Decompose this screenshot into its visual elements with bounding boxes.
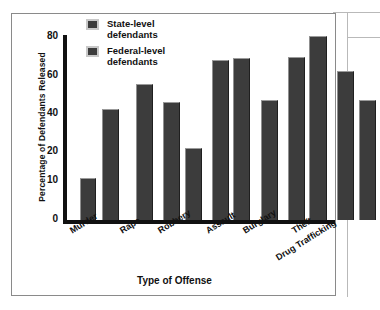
legend-label: Federal-leveldefendants [107, 45, 165, 67]
page-rule-top [333, 12, 380, 13]
bar-murder-federal [102, 109, 119, 220]
chart-legend: State-leveldefendantsFederal-leveldefend… [86, 18, 216, 72]
y-tick-label: 80 [24, 31, 58, 41]
bar-burglary-federal [261, 100, 278, 220]
y-axis-line [63, 35, 67, 224]
bar-theft-federal [309, 36, 327, 220]
legend-swatch [86, 19, 99, 30]
y-axis-title: Percentage of Defendants Released [37, 42, 47, 212]
legend-label: State-leveldefendants [107, 18, 158, 40]
bar-assault-state [212, 60, 229, 220]
legend-label-line1: State-level [107, 18, 158, 29]
legend-label-line2: defendants [107, 29, 158, 40]
legend-item: Federal-leveldefendants [86, 45, 216, 67]
bar-robbery-state [163, 102, 180, 220]
legend-label-line1: Federal-level [107, 45, 165, 56]
legend-item: State-leveldefendants [86, 18, 216, 40]
bar-rape-federal [136, 84, 153, 220]
bar-theft-state [288, 57, 305, 220]
y-tick-label: 0 [24, 214, 58, 224]
plot-area: 80604020100 MurderRapeRobberyAssaultBurg… [12, 14, 337, 297]
x-category-label: Rape [118, 215, 142, 235]
bar-assault-federal [233, 58, 250, 220]
legend-swatch [86, 46, 99, 57]
x-axis-title: Type of Offense [12, 275, 337, 286]
chart-figure-frame: 80604020100 MurderRapeRobberyAssaultBurg… [11, 13, 336, 296]
bar-drugtrafficking-state [337, 71, 354, 220]
legend-label-line2: defendants [107, 56, 165, 67]
page-rule-middle [347, 37, 380, 38]
bar-drugtrafficking-federal [359, 100, 376, 220]
